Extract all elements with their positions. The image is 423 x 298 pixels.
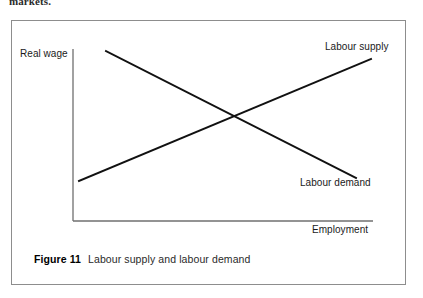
x-axis-label: Employment <box>312 224 368 235</box>
figure-caption: Figure 11Labour supply and labour demand <box>34 253 250 265</box>
figure-caption-number: Figure 11 <box>34 253 81 265</box>
figure-frame: Real wage Labour supply Labour demand Em… <box>11 20 406 285</box>
labour-demand-label: Labour demand <box>300 177 371 188</box>
labour-supply-label: Labour supply <box>325 41 388 52</box>
labour-demand-line <box>106 51 356 178</box>
supply-demand-chart <box>12 21 407 241</box>
body-text-fragment: markets. <box>9 0 51 7</box>
chart-plot-area: Real wage Labour supply Labour demand Em… <box>12 21 407 241</box>
y-axis-label: Real wage <box>20 48 68 59</box>
figure-caption-text: Labour supply and labour demand <box>88 253 250 265</box>
